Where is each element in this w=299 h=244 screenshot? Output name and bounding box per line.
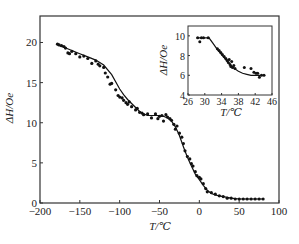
- y-tick-label: 6: [180, 70, 185, 81]
- data-point: [146, 112, 149, 115]
- data-point: [214, 193, 217, 196]
- data-point: [258, 197, 261, 200]
- y-tick-label: 20: [26, 36, 38, 48]
- main-y-axis-label: ΔH/Oe: [3, 93, 15, 124]
- data-point: [232, 64, 235, 67]
- y-tick-label: 5: [32, 157, 38, 169]
- data-point: [194, 170, 197, 173]
- inset-y-axis-label: ΔH/Oe: [157, 45, 169, 76]
- x-tick-label: 30: [200, 96, 210, 107]
- data-point: [242, 197, 245, 200]
- data-point: [199, 177, 202, 180]
- data-point: [122, 99, 125, 102]
- data-point: [90, 62, 93, 65]
- data-point: [180, 136, 183, 139]
- data-point: [210, 191, 213, 194]
- data-point: [154, 112, 157, 115]
- data-point: [230, 60, 233, 63]
- data-point: [175, 124, 178, 127]
- data-point: [106, 75, 109, 78]
- data-point: [170, 119, 173, 122]
- data-point: [150, 116, 153, 119]
- data-point: [130, 105, 133, 108]
- data-point: [250, 67, 253, 70]
- y-tick-label: 15: [26, 77, 38, 89]
- data-point: [222, 195, 225, 198]
- data-point: [162, 120, 165, 123]
- data-point: [204, 187, 207, 190]
- y-tick-label: 8: [180, 51, 185, 62]
- data-point: [182, 142, 185, 145]
- data-point: [234, 197, 237, 200]
- data-point: [254, 197, 257, 200]
- inset-plot: 263034384246 46810 T/℃ ΔH/Oe: [157, 26, 277, 118]
- data-point: [196, 36, 199, 39]
- data-point: [191, 165, 194, 168]
- data-point: [246, 197, 249, 200]
- data-point: [98, 64, 101, 67]
- data-point: [128, 100, 131, 103]
- chart-canvas: −200−150−100−50050100 05101520 T/℃ ΔH/Oe…: [0, 0, 299, 244]
- data-point: [102, 66, 105, 69]
- data-point: [228, 58, 231, 61]
- main-x-axis-label: T/℃: [149, 220, 171, 232]
- data-point: [234, 67, 237, 70]
- data-point: [256, 72, 259, 75]
- y-tick-label: 4: [180, 90, 185, 101]
- data-point: [86, 57, 89, 60]
- data-point: [198, 40, 201, 43]
- data-point: [178, 132, 181, 135]
- data-point: [202, 182, 205, 185]
- data-point: [104, 71, 107, 74]
- data-point: [64, 47, 67, 50]
- y-tick-label: 10: [175, 31, 185, 42]
- data-point: [188, 157, 191, 160]
- x-tick-label: −100: [108, 205, 131, 217]
- data-point: [68, 52, 71, 55]
- data-point: [70, 50, 73, 53]
- inset-x-axis-label: T/℃: [220, 106, 242, 118]
- y-tick-label: 0: [32, 197, 38, 209]
- data-point: [174, 128, 177, 131]
- data-point: [230, 197, 233, 200]
- data-point: [160, 114, 163, 117]
- data-point: [226, 197, 229, 200]
- data-point: [142, 113, 145, 116]
- x-tick-label: 46: [267, 96, 277, 107]
- data-point: [207, 36, 210, 39]
- data-point: [262, 197, 265, 200]
- data-point: [186, 155, 189, 158]
- data-point: [218, 194, 221, 197]
- data-point: [238, 197, 241, 200]
- data-point: [263, 74, 266, 77]
- data-point: [78, 55, 81, 58]
- data-point: [110, 82, 113, 85]
- y-tick-label: 10: [26, 117, 38, 129]
- x-tick-label: 42: [250, 96, 260, 107]
- x-tick-label: 100: [271, 205, 288, 217]
- x-tick-label: 50: [234, 205, 246, 217]
- data-point: [94, 59, 97, 62]
- x-tick-label: −50: [151, 205, 169, 217]
- data-point: [136, 107, 139, 110]
- x-tick-label: −150: [68, 205, 91, 217]
- data-point: [250, 197, 253, 200]
- data-point: [82, 55, 85, 58]
- data-point: [243, 66, 246, 69]
- x-tick-label: 0: [197, 205, 203, 217]
- data-point: [114, 88, 117, 91]
- data-point: [74, 52, 77, 55]
- data-point: [202, 36, 205, 39]
- data-point: [183, 149, 186, 152]
- data-point: [172, 123, 175, 126]
- data-point: [206, 190, 209, 193]
